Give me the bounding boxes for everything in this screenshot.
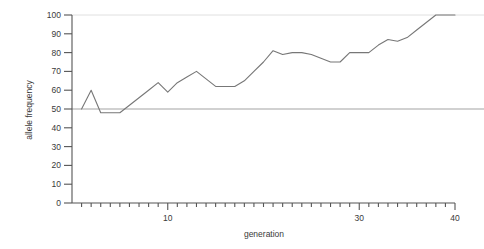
allele-frequency-line-chart: 0102030405060708090100 103040 allele fre… (0, 0, 484, 249)
x-tick-label: 30 (355, 213, 365, 223)
y-axis-title: allele frequency (24, 79, 34, 139)
data-line (82, 15, 455, 113)
x-tick-label: 40 (450, 213, 460, 223)
data-series-group (82, 15, 455, 113)
y-ticks: 0102030405060708090100 (47, 10, 72, 208)
reference-lines (72, 15, 484, 109)
x-ticks: 103040 (82, 203, 460, 223)
y-tick-label: 60 (52, 85, 62, 95)
y-tick-label: 90 (52, 29, 62, 39)
axis-titles: allele frequency generation (24, 79, 284, 239)
x-axis-group: 103040 (72, 203, 460, 223)
y-tick-label: 80 (52, 48, 62, 58)
y-axis-group: 0102030405060708090100 (47, 10, 72, 208)
x-axis-title: generation (244, 229, 284, 239)
y-tick-label: 40 (52, 123, 62, 133)
y-tick-label: 20 (52, 160, 62, 170)
y-tick-label: 50 (52, 104, 62, 114)
y-tick-label: 100 (47, 10, 61, 20)
x-tick-label: 10 (163, 213, 173, 223)
chart-container: 0102030405060708090100 103040 allele fre… (0, 0, 484, 249)
y-tick-label: 70 (52, 66, 62, 76)
y-tick-label: 10 (52, 179, 62, 189)
y-tick-label: 0 (56, 198, 61, 208)
y-tick-label: 30 (52, 142, 62, 152)
